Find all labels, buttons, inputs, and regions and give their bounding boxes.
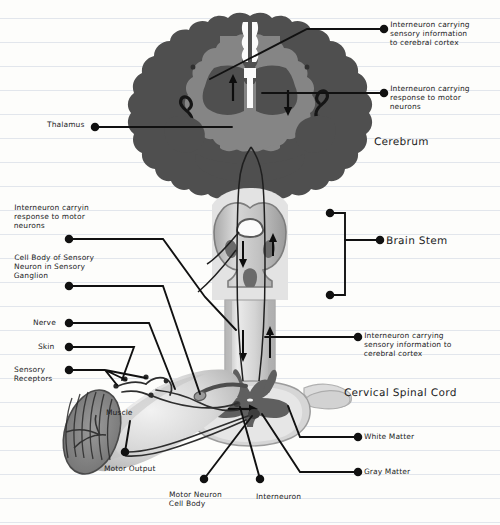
notebook-page: Interneuron carrying sensory information… <box>0 0 500 525</box>
label-nerve: Nerve <box>33 318 56 327</box>
label-text-layer: Interneuron carrying sensory information… <box>0 0 500 525</box>
label-motor-neuron-cell-body: Motor Neuron Cell Body <box>169 490 222 508</box>
label-interneuron-motor-response-left: Interneuron carryin response to motor ne… <box>14 203 89 231</box>
label-thalamus: Thalamus <box>47 120 85 129</box>
label-cerebrum: Cerebrum <box>374 135 429 147</box>
label-brain-stem: Brain Stem <box>386 234 448 246</box>
label-cervical-spinal-cord: Cervical Spinal Cord <box>344 386 457 398</box>
label-cell-body-sensory-neuron: Cell Body of Sensory Neuron in Sensory G… <box>14 253 95 281</box>
label-gray-matter: Gray Matter <box>364 467 411 476</box>
label-white-matter: White Matter <box>364 432 415 441</box>
label-interneuron-bottom: Interneuron <box>256 492 301 501</box>
label-motor-output: Motor Output <box>104 464 156 473</box>
label-sensory-receptors: Sensory Receptors <box>14 365 53 383</box>
label-skin: Skin <box>38 342 55 351</box>
label-muscle: Muscle <box>106 408 133 417</box>
label-interneuron-motor-response-top: Interneuron carrying response to motor n… <box>390 84 470 112</box>
label-interneuron-sensory-cortex-top: Interneuron carrying sensory information… <box>390 20 470 48</box>
label-interneuron-sensory-cortex-cord: Interneuron carrying sensory information… <box>364 331 452 359</box>
